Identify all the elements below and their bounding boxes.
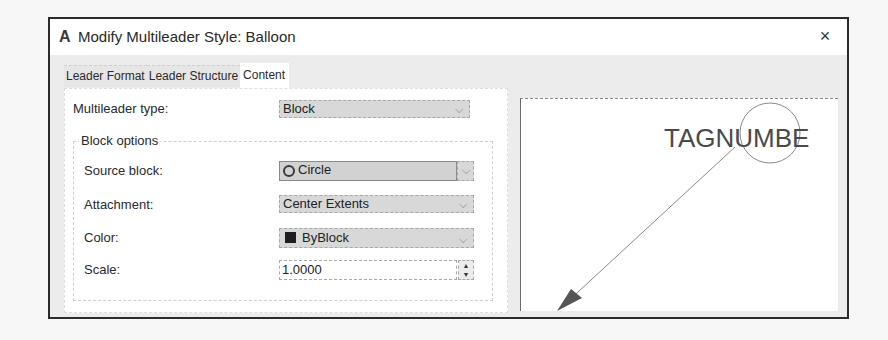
chevron-down-icon: ⌵ [455,101,463,117]
modify-multileader-style-dialog: A Modify Multileader Style: Balloon × Le… [48,17,849,319]
circle-icon [283,165,295,177]
tab-leader-format[interactable]: Leader Format [64,65,147,87]
spin-down-icon[interactable]: ▼ [459,270,473,279]
dialog-client-area: Leader Format Leader Structure Content M… [50,55,847,317]
color-swatch [285,232,296,243]
leader-line [565,147,735,304]
chevron-down-icon: ⌵ [459,230,467,248]
multileader-type-value: Block [283,101,315,116]
close-icon: × [820,26,831,46]
multileader-preview: TAGNUMBE [520,98,838,311]
source-block-value: Circle [298,162,331,177]
block-options-group: Block options Source block: Circle ⌵ Att… [73,141,493,301]
chevron-down-icon: ⌵ [459,196,467,212]
attachment-dropdown[interactable]: Center Extents ⌵ [279,195,474,213]
block-options-title: Block options [79,133,160,148]
spin-up-icon[interactable]: ▲ [459,261,473,270]
attachment-value: Center Extents [283,196,369,211]
color-dropdown[interactable]: ByBlock ⌵ [279,228,474,248]
source-block-dropdown-arrow[interactable]: ⌵ [457,161,474,181]
scale-spinner[interactable]: ▲ ▼ [458,260,474,280]
preview-drawing: TAGNUMBE [521,99,838,311]
chevron-down-icon: ⌵ [462,162,470,178]
color-label: Color: [84,230,119,245]
source-block-dropdown[interactable]: Circle [279,161,457,181]
multileader-type-label: Multileader type: [73,101,168,116]
scale-label: Scale: [84,262,120,277]
title-bar: A Modify Multileader Style: Balloon × [50,19,847,55]
content-tab-panel: Multileader type: Block ⌵ Block options … [64,88,508,313]
scale-input[interactable]: 1.0000 [279,260,457,280]
source-block-label: Source block: [84,163,163,178]
tag-number-text: TAGNUMBE [664,123,809,153]
color-value: ByBlock [302,230,349,245]
tab-strip: Leader Format Leader Structure Content [64,65,289,87]
autocad-app-icon: A [59,28,71,46]
tab-leader-structure[interactable]: Leader Structure [147,65,240,87]
attachment-label: Attachment: [84,197,153,212]
close-button[interactable]: × [815,26,835,46]
dialog-title: Modify Multileader Style: Balloon [78,28,296,45]
multileader-type-dropdown[interactable]: Block ⌵ [279,100,470,118]
tab-content[interactable]: Content [240,63,289,88]
